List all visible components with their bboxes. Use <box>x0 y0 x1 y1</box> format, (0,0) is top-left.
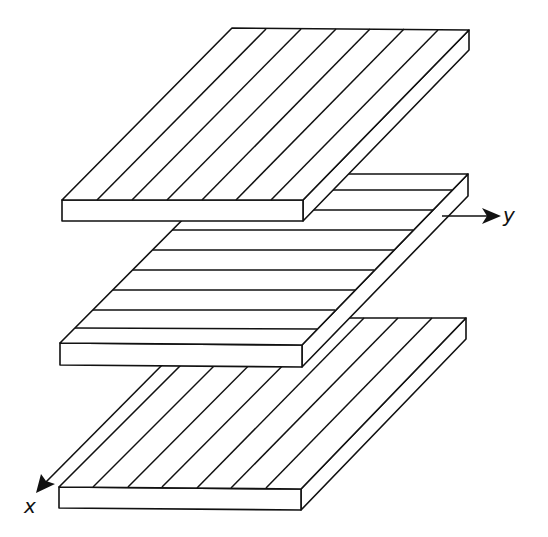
x-axis-label: x <box>24 496 36 516</box>
laminate-diagram: x y <box>0 0 548 537</box>
y-axis-label: y <box>503 205 515 225</box>
bottom-ply-front-face <box>59 487 301 510</box>
middle-ply-front-face <box>60 343 302 367</box>
top-ply-front-face <box>62 200 303 221</box>
